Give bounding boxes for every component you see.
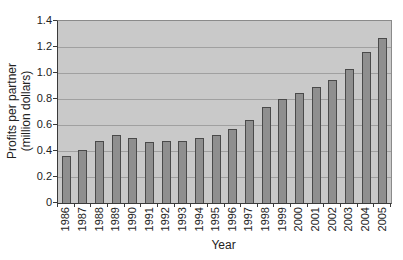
y-tick-mark: [53, 150, 57, 151]
bar-slot-2003: [341, 21, 358, 203]
bar-2001: [312, 87, 321, 203]
x-tick-mark: [57, 203, 58, 207]
bar-1995: [212, 135, 221, 203]
x-tick-label-1992: 1992: [159, 207, 171, 231]
x-tick-mark: [90, 203, 91, 207]
bar-1994: [195, 138, 204, 203]
bar-slot-1991: [141, 21, 158, 203]
x-tick-label-1997: 1997: [242, 207, 254, 231]
x-tick-label-2001: 2001: [309, 207, 321, 231]
x-tick-label-2000: 2000: [292, 207, 304, 231]
y-tick-mark: [53, 98, 57, 99]
y-tick-label: 1.0: [18, 66, 52, 79]
bar-slot-1995: [208, 21, 225, 203]
bar-slot-2004: [358, 21, 375, 203]
x-tick-mark: [207, 203, 208, 207]
x-tick-label-2003: 2003: [342, 207, 354, 231]
x-tick-mark: [290, 203, 291, 207]
bar-2003: [345, 69, 354, 203]
bar-1996: [228, 129, 237, 203]
y-tick-label: 0.6: [18, 118, 52, 131]
x-tick-mark: [357, 203, 358, 207]
x-tick-mark: [257, 203, 258, 207]
bar-slot-1989: [108, 21, 125, 203]
x-tick-mark: [157, 203, 158, 207]
bar-2002: [328, 80, 337, 203]
profits-per-partner-chart: Profits per partner (million dollars) 00…: [0, 0, 403, 260]
x-axis-title: Year: [57, 238, 390, 252]
bar-1987: [78, 150, 87, 203]
x-tick-mark: [140, 203, 141, 207]
x-tick-label-2005: 2005: [376, 207, 388, 231]
x-tick-label-2002: 2002: [326, 207, 338, 231]
bar-slot-1997: [241, 21, 258, 203]
bar-2005: [378, 38, 387, 203]
x-tick-mark: [107, 203, 108, 207]
y-tick-mark: [53, 72, 57, 73]
y-tick-label: 0: [18, 196, 52, 209]
bar-slot-1993: [175, 21, 192, 203]
x-tick-label-1996: 1996: [226, 207, 238, 231]
x-tick-mark: [323, 203, 324, 207]
x-tick-mark: [373, 203, 374, 207]
x-tick-label-1990: 1990: [126, 207, 138, 231]
bar-1990: [128, 138, 137, 203]
bar-1993: [178, 141, 187, 203]
x-tick-label-1999: 1999: [276, 207, 288, 231]
bar-1999: [278, 99, 287, 203]
bar-1992: [162, 141, 171, 203]
bar-1998: [262, 107, 271, 203]
bar-1988: [95, 141, 104, 203]
x-tick-mark: [273, 203, 274, 207]
bar-slot-1990: [125, 21, 142, 203]
x-tick-mark: [390, 203, 391, 207]
x-tick-mark: [240, 203, 241, 207]
x-tick-label-1986: 1986: [59, 207, 71, 231]
bar-slot-1996: [225, 21, 242, 203]
y-tick-mark: [53, 20, 57, 21]
y-tick-mark: [53, 46, 57, 47]
y-tick-label: 0.4: [18, 144, 52, 157]
x-tick-mark: [124, 203, 125, 207]
y-tick-mark: [53, 176, 57, 177]
x-tick-label-1995: 1995: [209, 207, 221, 231]
y-tick-label: 0.8: [18, 92, 52, 105]
y-tick-label: 1.4: [18, 14, 52, 27]
bar-2000: [295, 93, 304, 204]
x-tick-label-1994: 1994: [193, 207, 205, 231]
bar-1986: [62, 156, 71, 203]
x-tick-label-1998: 1998: [259, 207, 271, 231]
x-tick-mark: [340, 203, 341, 207]
bar-slot-2001: [308, 21, 325, 203]
x-tick-mark: [190, 203, 191, 207]
bar-2004: [362, 52, 371, 203]
x-tick-label-1989: 1989: [109, 207, 121, 231]
bars: [58, 21, 391, 203]
bar-slot-1992: [158, 21, 175, 203]
bar-1989: [112, 135, 121, 203]
bar-1997: [245, 120, 254, 203]
bar-slot-2002: [325, 21, 342, 203]
bar-slot-1994: [191, 21, 208, 203]
x-tick-label-1988: 1988: [93, 207, 105, 231]
y-tick-mark: [53, 124, 57, 125]
y-axis-title-line1: Profits per partner: [5, 20, 19, 202]
x-tick-mark: [224, 203, 225, 207]
bar-slot-2000: [291, 21, 308, 203]
bar-slot-2005: [374, 21, 391, 203]
plot-area: [57, 20, 392, 204]
bar-slot-1987: [75, 21, 92, 203]
bar-slot-1998: [258, 21, 275, 203]
x-tick-mark: [307, 203, 308, 207]
bar-slot-1999: [275, 21, 292, 203]
x-tick-label-1991: 1991: [143, 207, 155, 231]
bar-slot-1988: [91, 21, 108, 203]
x-tick-mark: [174, 203, 175, 207]
bar-slot-1986: [58, 21, 75, 203]
bar-1991: [145, 142, 154, 203]
x-tick-label-1993: 1993: [176, 207, 188, 231]
y-tick-label: 0.2: [18, 170, 52, 183]
x-tick-mark: [74, 203, 75, 207]
y-tick-label: 1.2: [18, 40, 52, 53]
x-tick-label-1987: 1987: [76, 207, 88, 231]
